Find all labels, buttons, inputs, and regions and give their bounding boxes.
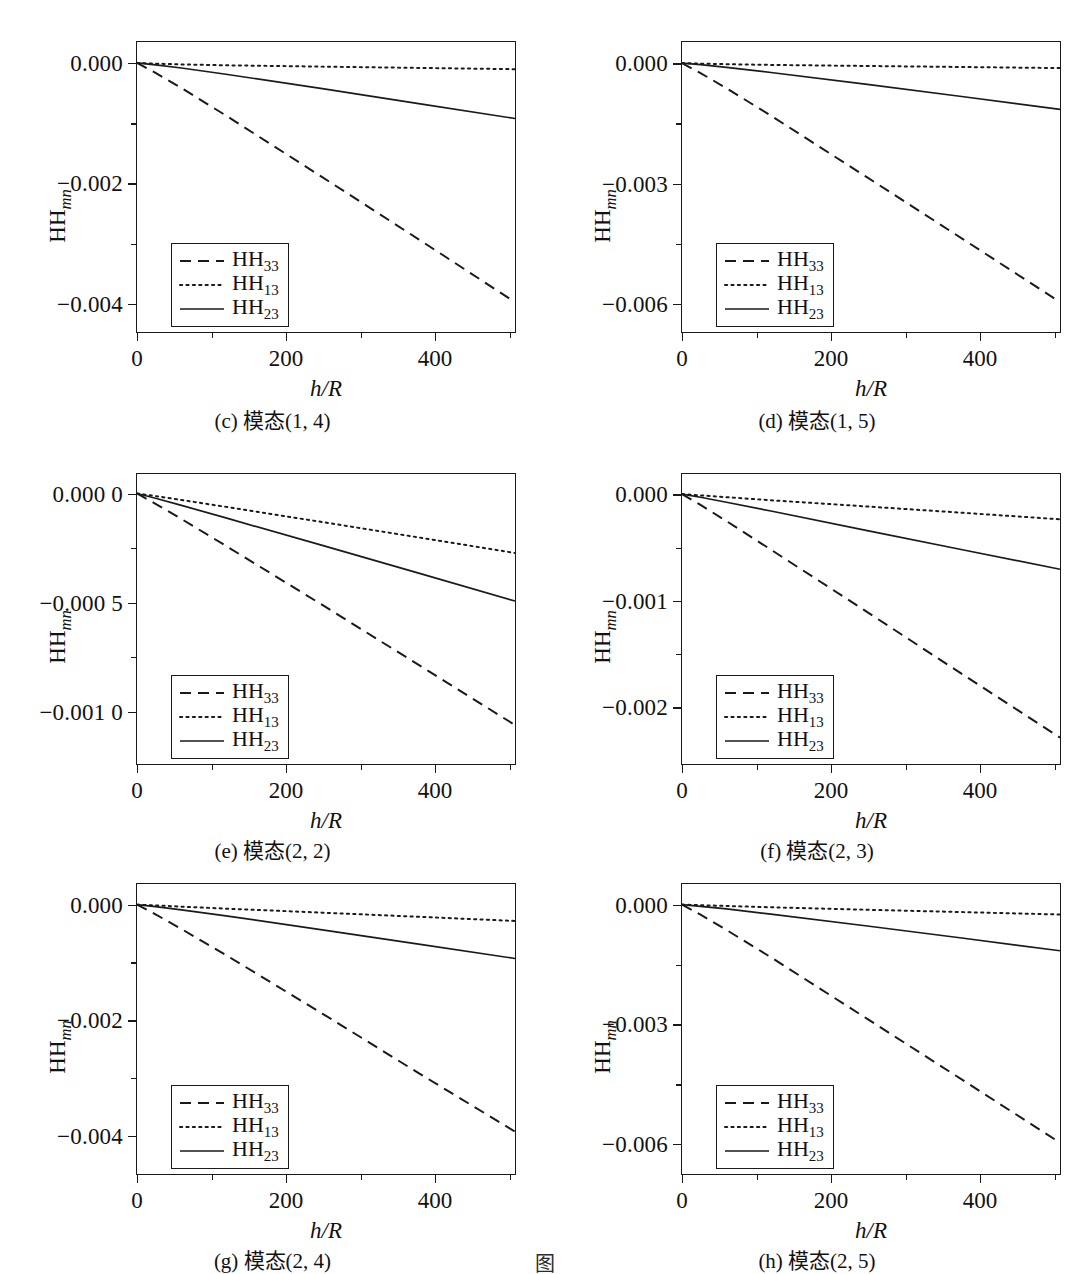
- legend-label-base: HH: [777, 270, 809, 295]
- panel-d: HHmnh/R(d) 模态(1, 5)0.000−0.003−0.0060200…: [545, 0, 1089, 432]
- y-tick-major: [673, 601, 682, 602]
- y-tick-major: [673, 494, 682, 495]
- legend-item-hh23: HH23: [724, 729, 824, 753]
- y-tick-label: 0.000: [615, 483, 668, 506]
- legend-swatch-hh23-icon: [179, 1145, 225, 1157]
- x-tick-major: [137, 332, 138, 341]
- y-tick-major: [128, 1136, 137, 1137]
- legend-swatch-hh23-icon: [724, 735, 770, 747]
- legend: HH33HH13HH23: [716, 675, 834, 759]
- plot-area: 0.000−0.003−0.0060200400HH33HH13HH23: [681, 883, 1061, 1175]
- series-line-hh23: [137, 63, 515, 119]
- panel-e: HHmnh/R(e) 模态(2, 2)0.000 0−0.000 5−0.001…: [0, 432, 545, 842]
- y-tick-major: [673, 905, 682, 906]
- legend: HH33HH13HH23: [716, 1085, 834, 1169]
- legend-swatch-hh23-icon: [724, 303, 770, 315]
- y-tick-major: [673, 1024, 682, 1025]
- y-axis-title-base: HH: [45, 631, 70, 664]
- x-tick-label: 200: [814, 779, 849, 802]
- x-tick-major: [831, 332, 832, 341]
- x-tick-label: 0: [676, 347, 688, 370]
- plot-area: 0.000−0.002−0.0040200400HH33HH13HH23: [136, 41, 516, 333]
- y-tick-label: 0.000 0: [53, 482, 123, 505]
- legend-item-hh23: HH23: [179, 729, 279, 753]
- x-axis-title: h/R: [136, 376, 516, 402]
- legend-item-hh23: HH23: [179, 297, 279, 321]
- x-tick-major: [137, 1174, 138, 1183]
- legend-item-hh23: HH23: [724, 297, 824, 321]
- y-tick-label: −0.002: [57, 172, 123, 195]
- legend-swatch-hh13-icon: [179, 711, 225, 723]
- y-axis-title-base: HH: [590, 210, 615, 243]
- x-tick-minor: [510, 764, 511, 770]
- plot-area: 0.000−0.001−0.0020200400HH33HH13HH23: [681, 473, 1061, 765]
- legend-label-base: HH: [232, 294, 264, 319]
- y-tick-label: −0.006: [602, 292, 668, 315]
- x-tick-major: [980, 1174, 981, 1183]
- x-tick-major: [831, 1174, 832, 1183]
- x-tick-minor: [1055, 764, 1056, 770]
- legend-swatch-hh13-icon: [724, 279, 770, 291]
- y-tick-label: 0.000: [615, 52, 668, 75]
- plot-area: 0.000−0.003−0.0060200400HH33HH13HH23: [681, 41, 1061, 333]
- x-tick-label: 400: [963, 1189, 998, 1212]
- y-tick-label: 0.000: [615, 893, 668, 916]
- y-tick-major: [128, 1020, 137, 1021]
- x-tick-label: 200: [814, 1189, 849, 1212]
- x-tick-label: 0: [131, 1189, 143, 1212]
- x-tick-major: [286, 332, 287, 341]
- x-tick-label: 0: [131, 347, 143, 370]
- x-tick-minor: [212, 332, 213, 338]
- x-tick-major: [435, 332, 436, 341]
- legend-label-base: HH: [232, 678, 264, 703]
- legend-label-subscript: 23: [809, 306, 824, 322]
- y-axis-title-base: HH: [590, 1041, 615, 1074]
- panel-g: HHmnh/R(g) 模态(2, 4)0.000−0.002−0.0040200…: [0, 842, 545, 1252]
- legend-label-base: HH: [232, 702, 264, 727]
- legend-label-base: HH: [232, 270, 264, 295]
- x-tick-minor: [757, 764, 758, 770]
- x-axis-title: h/R: [681, 376, 1061, 402]
- x-tick-label: 200: [269, 779, 304, 802]
- x-tick-minor: [1055, 332, 1056, 338]
- x-tick-minor: [510, 332, 511, 338]
- series-line-hh13: [137, 905, 515, 921]
- legend-label-hh23: HH23: [232, 296, 279, 322]
- series-line-hh13: [137, 493, 515, 553]
- x-tick-major: [682, 332, 683, 341]
- series-line-hh23: [137, 905, 515, 959]
- x-tick-minor: [906, 764, 907, 770]
- legend-swatch-hh33-icon: [724, 1097, 770, 1109]
- legend-label-base: HH: [777, 702, 809, 727]
- legend: HH33HH13HH23: [716, 243, 834, 327]
- y-tick-label: 0.000: [70, 893, 123, 916]
- x-tick-minor: [757, 1174, 758, 1180]
- y-tick-major: [128, 905, 137, 906]
- figure-bottom-caption: 图: [0, 1248, 1089, 1274]
- y-tick-major: [128, 183, 137, 184]
- y-tick-major: [673, 184, 682, 185]
- series-line-hh13: [137, 63, 515, 69]
- x-tick-label: 400: [963, 347, 998, 370]
- y-tick-major: [673, 707, 682, 708]
- x-tick-major: [682, 1174, 683, 1183]
- x-tick-label: 400: [418, 1189, 453, 1212]
- y-tick-major: [128, 304, 137, 305]
- x-tick-minor: [212, 764, 213, 770]
- legend-item-hh23: HH23: [724, 1139, 824, 1163]
- legend: HH33HH13HH23: [171, 1085, 289, 1169]
- y-axis-title: HHmn: [45, 610, 76, 663]
- series-line-hh23: [137, 493, 515, 601]
- x-tick-minor: [906, 1174, 907, 1180]
- legend-label-base: HH: [232, 1112, 264, 1137]
- legend: HH33HH13HH23: [171, 675, 289, 759]
- x-tick-minor: [361, 1174, 362, 1180]
- plot-area: 0.000−0.002−0.0040200400HH33HH13HH23: [136, 883, 516, 1175]
- x-tick-major: [286, 764, 287, 773]
- x-tick-minor: [212, 1174, 213, 1180]
- y-tick-major: [673, 1144, 682, 1145]
- legend-label-base: HH: [232, 1136, 264, 1161]
- legend-swatch-hh23-icon: [724, 1145, 770, 1157]
- legend-swatch-hh23-icon: [179, 303, 225, 315]
- legend-label-base: HH: [777, 678, 809, 703]
